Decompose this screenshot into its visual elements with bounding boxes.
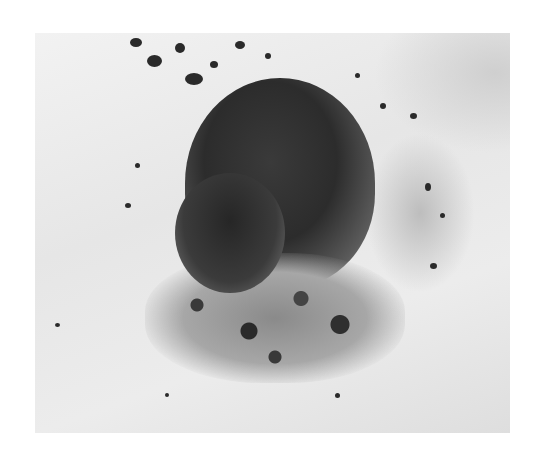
dirt-speck — [425, 183, 431, 191]
dirt-speck — [147, 55, 162, 67]
dirt-speck — [55, 323, 60, 327]
dirt-speck — [410, 113, 417, 119]
snow-shadow — [365, 133, 475, 293]
dirt-speck — [440, 213, 445, 218]
dirt-speck — [430, 263, 437, 269]
dirt-speck — [125, 203, 131, 208]
dirt-speck — [235, 41, 245, 49]
dirt-speck — [135, 163, 140, 168]
dirt-speck — [355, 73, 360, 78]
dirt-speck — [380, 103, 386, 109]
photo — [35, 33, 510, 433]
dirt-speck — [335, 393, 340, 398]
dirt-speck — [175, 43, 185, 53]
rodent-head — [175, 173, 285, 293]
dirt-speck — [210, 61, 218, 68]
dirt-speck — [165, 393, 169, 397]
dirt-pile — [145, 253, 405, 383]
dirt-speck — [185, 73, 203, 85]
dirt-speck — [265, 53, 271, 59]
dirt-speck — [130, 38, 142, 47]
